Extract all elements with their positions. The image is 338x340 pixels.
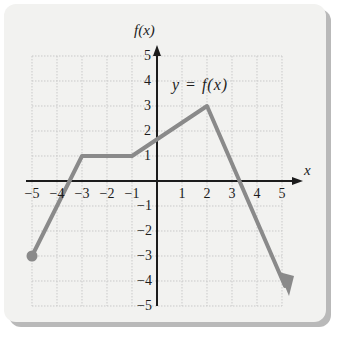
x-tick-label-neg4: −4 bbox=[47, 186, 67, 202]
x-tick-label-2: 2 bbox=[197, 186, 217, 202]
curve-arrowhead bbox=[279, 272, 294, 296]
y-axis-label: f(x) bbox=[134, 22, 155, 39]
x-tick-label-neg5: −5 bbox=[22, 186, 42, 202]
curve-annotation-label: y = f(x) bbox=[172, 76, 228, 94]
y-tick-label-neg2: −2 bbox=[128, 223, 152, 239]
function-graph-plot bbox=[4, 4, 326, 322]
y-tick-label-neg1: −1 bbox=[128, 198, 152, 214]
x-tick-label-neg3: −3 bbox=[72, 186, 92, 202]
closed-endpoint-dot bbox=[27, 251, 38, 262]
y-tick-label-neg3: −3 bbox=[128, 248, 152, 264]
x-axis-label: x bbox=[304, 162, 311, 179]
figure-panel: f(x) x y = f(x) −5 −4 −3 −2 −1 1 2 3 4 5… bbox=[4, 4, 326, 322]
x-tick-label-neg2: −2 bbox=[97, 186, 117, 202]
y-tick-label-3: 3 bbox=[135, 98, 151, 114]
x-tick-label-1: 1 bbox=[172, 186, 192, 202]
x-tick-label-3: 3 bbox=[222, 186, 242, 202]
x-tick-label-4: 4 bbox=[247, 186, 267, 202]
y-axis bbox=[153, 45, 161, 306]
y-tick-label-4: 4 bbox=[135, 73, 151, 89]
y-tick-label-neg5: −5 bbox=[128, 298, 152, 314]
y-tick-label-neg4: −4 bbox=[128, 273, 152, 289]
x-tick-label-5: 5 bbox=[272, 186, 292, 202]
y-tick-label-5: 5 bbox=[135, 48, 151, 64]
y-tick-label-1: 1 bbox=[135, 148, 151, 164]
y-tick-label-2: 2 bbox=[135, 123, 151, 139]
